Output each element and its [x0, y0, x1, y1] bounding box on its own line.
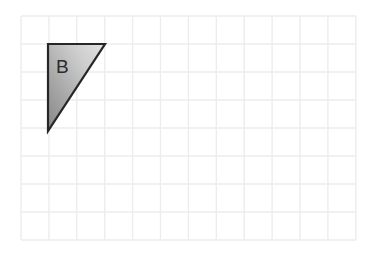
figure-svg: B [0, 0, 373, 254]
figure-canvas: B [0, 0, 373, 254]
figure-background [0, 0, 373, 254]
triangle-b-label: B [56, 56, 69, 77]
